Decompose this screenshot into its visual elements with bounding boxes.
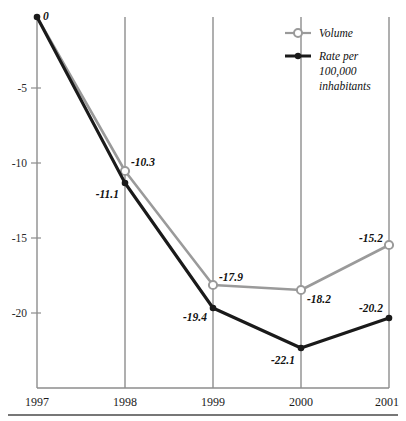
series-volume-point-2000 <box>297 286 305 294</box>
legend-open-circle-icon <box>294 29 302 37</box>
series-rate-point-2001 <box>386 315 393 322</box>
legend-label-rate-line2: 100,000 <box>319 65 357 78</box>
chart-container: -5 -10 -15 -20 0 -10.3 -11.1 -17. <box>0 0 406 421</box>
x-tick-label-1997: 1997 <box>25 395 49 409</box>
x-tick-label-2000: 2000 <box>289 395 313 409</box>
line-chart: -5 -10 -15 -20 0 -10.3 -11.1 -17. <box>0 0 406 421</box>
data-label-1997: 0 <box>43 10 49 22</box>
x-axis-labels: 1997 1998 1999 2000 2001 <box>25 395 399 409</box>
y-axis-ticks <box>31 88 41 313</box>
legend-filled-circle-icon <box>295 53 301 59</box>
y-tick-label--20: -20 <box>12 307 28 319</box>
series-rate-point-1997 <box>34 14 41 21</box>
series-volume-point-1999 <box>209 281 217 289</box>
series-rate-point-1999 <box>210 305 217 312</box>
y-tick-label--5: -5 <box>17 82 27 94</box>
data-label-2000-rate: -22.1 <box>271 354 295 366</box>
x-tick-label-1999: 1999 <box>201 395 225 409</box>
x-tick-label-1998: 1998 <box>113 395 137 409</box>
x-tick-label-2001: 2001 <box>375 395 399 409</box>
data-label-2001-rate: -20.2 <box>359 302 383 314</box>
data-label-2001-volume: -15.2 <box>359 232 383 244</box>
data-label-1999-rate: -19.4 <box>183 311 207 323</box>
legend-label-volume: Volume <box>319 27 353 39</box>
series-volume-point-2001 <box>385 241 393 249</box>
y-tick-label--15: -15 <box>12 232 28 244</box>
legend: Volume Rate per 100,000 inhabitants <box>285 27 371 92</box>
series-rate-point-2000 <box>298 345 305 352</box>
legend-entry-rate[interactable]: Rate per 100,000 inhabitants <box>285 50 371 92</box>
series-rate-point-1998 <box>122 180 129 187</box>
legend-label-rate-line1: Rate per <box>318 50 359 63</box>
data-label-2000-volume: -18.2 <box>307 293 331 305</box>
legend-entry-volume[interactable]: Volume <box>285 27 353 39</box>
y-axis-labels: -5 -10 -15 -20 <box>12 82 28 319</box>
data-label-1998-rate: -11.1 <box>96 188 119 200</box>
data-label-1998-volume: -10.3 <box>131 156 155 168</box>
series-volume-point-1998 <box>121 167 129 175</box>
legend-label-rate-line3: inhabitants <box>319 80 371 92</box>
y-tick-label--10: -10 <box>12 157 28 169</box>
data-label-1999-volume: -17.9 <box>219 271 243 283</box>
